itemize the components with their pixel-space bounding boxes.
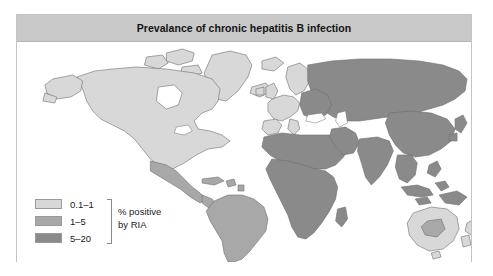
- region-indonesia-philippines: [435, 181, 449, 191]
- map-canvas: 0.1–1 1–5 5–20 % positive by RIA: [17, 43, 471, 262]
- region-south-asia: [358, 137, 394, 185]
- figure-panel: Prevalance of chronic hepatitis B infect…: [16, 14, 472, 262]
- region-new-zealand: [461, 235, 471, 247]
- region-australia: [431, 251, 441, 259]
- caspian-sea: [336, 111, 348, 127]
- region-east-asia-china: [385, 111, 455, 157]
- region-caribbean: [238, 185, 244, 191]
- region-new-zealand: [465, 219, 471, 235]
- region-arctic-islands: [262, 57, 284, 71]
- region-indonesia-philippines: [415, 197, 431, 205]
- region-mexico-central-america: [150, 161, 206, 203]
- map-legend: 0.1–1 1–5 5–20 % positive by RIA: [35, 198, 185, 258]
- region-arctic-islands: [144, 55, 168, 69]
- region-western-europe: [262, 119, 282, 135]
- region-caribbean: [226, 179, 236, 187]
- legend-item: 1–5: [35, 215, 86, 227]
- legend-swatch-mid: [35, 216, 62, 226]
- region-indonesia-philippines: [401, 185, 433, 197]
- region-south-america: [206, 195, 268, 262]
- legend-swatch-high: [35, 233, 62, 243]
- region-north-america: [77, 67, 230, 169]
- region-southeast-asia: [395, 155, 417, 183]
- region-arctic-islands: [166, 49, 194, 65]
- legend-bracket: [107, 199, 112, 244]
- legend-label-mid: 1–5: [70, 216, 86, 227]
- legend-caption: % positive by RIA: [118, 205, 161, 231]
- legend-label-high: 5–20: [70, 233, 91, 244]
- legend-caption-line1: % positive: [118, 205, 161, 218]
- region-scandinavia: [286, 63, 310, 95]
- legend-item: 5–20: [35, 232, 91, 244]
- region-western-europe: [288, 119, 300, 135]
- region-madagascar: [336, 207, 348, 227]
- page-title: Prevalance of chronic hepatitis B infect…: [137, 22, 352, 34]
- legend-caption-line2: by RIA: [118, 218, 161, 231]
- legend-swatch-low: [35, 199, 62, 209]
- legend-item: 0.1–1: [35, 198, 94, 210]
- region-japan: [455, 115, 467, 133]
- region-eastern-europe-russia: [308, 59, 467, 121]
- region-indonesia-philippines: [427, 161, 441, 177]
- region-caribbean: [202, 177, 224, 185]
- region-sub-saharan-africa: [266, 159, 338, 239]
- legend-label-low: 0.1–1: [70, 199, 94, 210]
- figure-title-bar: Prevalance of chronic hepatitis B infect…: [17, 15, 471, 42]
- region-new-guinea: [439, 191, 467, 205]
